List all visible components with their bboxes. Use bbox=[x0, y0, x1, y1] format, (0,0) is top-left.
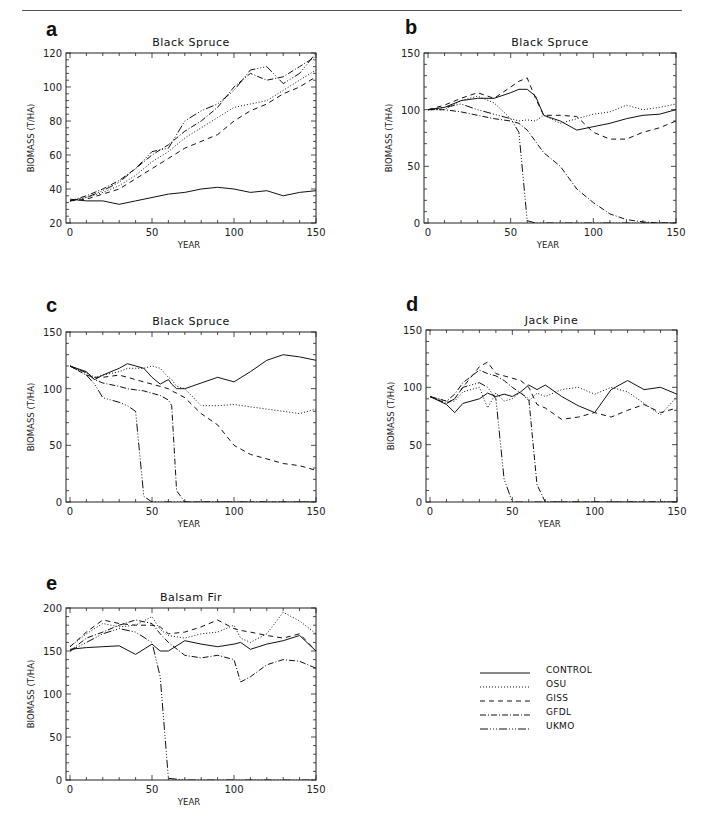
series-ukmo bbox=[430, 383, 677, 502]
legend-label-osu: OSU bbox=[546, 679, 566, 689]
y-tick-label: 200 bbox=[43, 603, 62, 614]
legend-label-ukmo: UKMO bbox=[546, 721, 575, 731]
legend-swatch-osu bbox=[480, 685, 530, 689]
series-gfdl bbox=[430, 370, 677, 502]
chart-e: 050100150050100150200YEARBIOMASS (T/HA) bbox=[0, 0, 350, 826]
series-ukmo bbox=[70, 629, 316, 780]
y-axis-label: BIOMASS (T/HA) bbox=[386, 382, 396, 451]
series-control bbox=[430, 381, 677, 413]
legend-swatch-control bbox=[480, 671, 530, 675]
y-tick-label: 150 bbox=[403, 325, 422, 336]
y-tick-label: 0 bbox=[56, 775, 62, 786]
x-tick-label: 100 bbox=[224, 784, 243, 795]
y-tick-label: 0 bbox=[416, 497, 422, 508]
legend: CONTROL OSU GISS GFDL UKMO bbox=[480, 665, 640, 735]
legend-item-gfdl: GFDL bbox=[480, 707, 640, 721]
y-axis-label: BIOMASS (T/HA) bbox=[26, 660, 36, 729]
plot-frame bbox=[426, 330, 677, 502]
legend-label-gfdl: GFDL bbox=[546, 707, 571, 717]
x-axis-label: YEAR bbox=[537, 519, 560, 529]
legend-swatch-giss bbox=[480, 699, 530, 703]
x-tick-label: 100 bbox=[585, 506, 604, 517]
plot-frame bbox=[66, 608, 316, 780]
legend-item-ukmo: UKMO bbox=[480, 721, 640, 735]
x-tick-label: 150 bbox=[306, 784, 325, 795]
x-axis-label: YEAR bbox=[177, 797, 200, 807]
x-tick-label: 0 bbox=[67, 784, 73, 795]
y-tick-label: 100 bbox=[43, 689, 62, 700]
legend-item-control: CONTROL bbox=[480, 665, 640, 679]
series-control bbox=[70, 636, 316, 655]
y-tick-label: 50 bbox=[49, 732, 62, 743]
y-tick-label: 150 bbox=[43, 646, 62, 657]
x-tick-label: 150 bbox=[667, 506, 686, 517]
legend-item-osu: OSU bbox=[480, 679, 640, 693]
y-tick-label: 50 bbox=[409, 440, 422, 451]
x-tick-label: 50 bbox=[506, 506, 519, 517]
legend-label-control: CONTROL bbox=[546, 665, 592, 675]
legend-swatch-gfdl bbox=[480, 713, 530, 717]
series-osu bbox=[430, 387, 677, 415]
panel-e: e Balsam Fir 050100150050100150200YEARBI… bbox=[0, 0, 350, 826]
legend-label-giss: GISS bbox=[546, 693, 568, 703]
legend-item-giss: GISS bbox=[480, 693, 640, 707]
x-tick-label: 0 bbox=[427, 506, 433, 517]
x-tick-label: 50 bbox=[146, 784, 159, 795]
y-tick-label: 100 bbox=[403, 382, 422, 393]
legend-swatch-ukmo bbox=[480, 727, 530, 731]
